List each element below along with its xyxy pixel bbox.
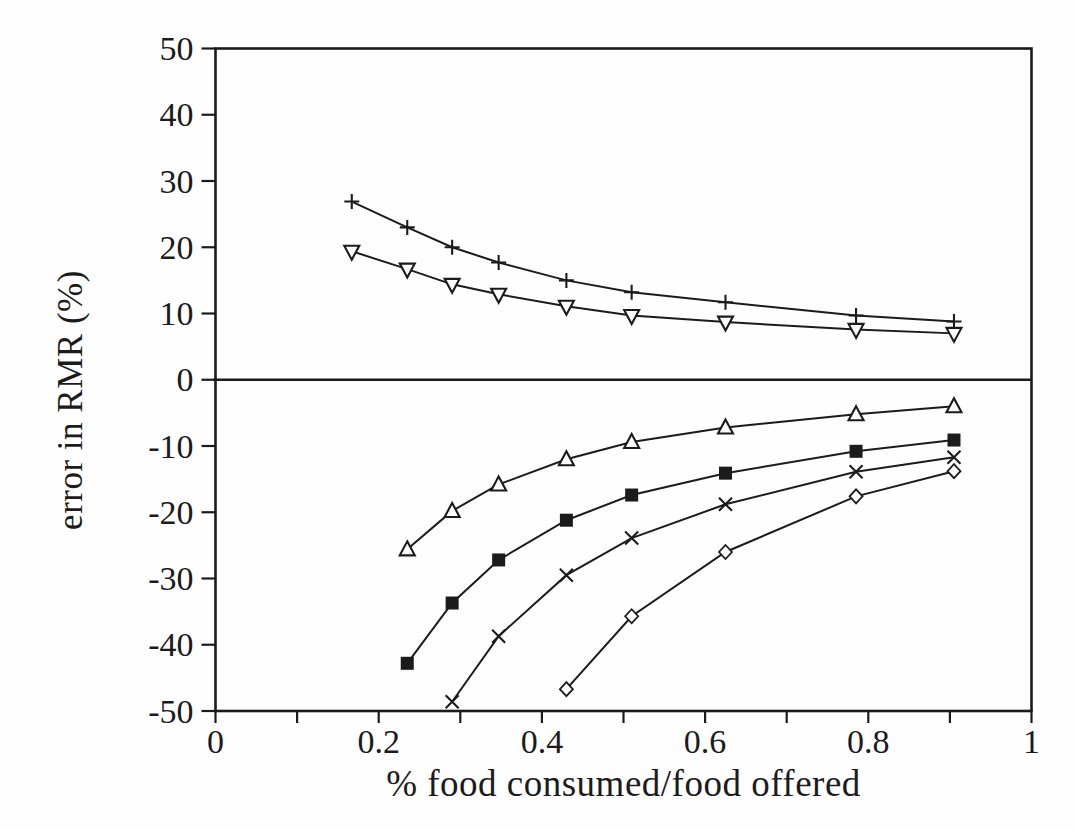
triangle-up-series-triangle-up-marker-icon [400, 541, 415, 555]
triangle-up-series-triangle-up-marker-icon [445, 503, 460, 517]
filled-square-series-line [407, 440, 954, 663]
triangle-up-series-triangle-up-marker-icon [946, 398, 961, 412]
plus-series-plus-marker-icon [491, 255, 506, 270]
x-tick-label: 0.8 [847, 723, 890, 760]
y-tick-label: 30 [160, 163, 194, 200]
y-tick-label: 10 [160, 295, 194, 332]
y-tick-label: -30 [148, 560, 193, 597]
diamond-series-diamond-marker-icon [719, 545, 732, 559]
x-cross-series-x-marker-icon [492, 630, 505, 643]
x-tick-label: 0 [207, 723, 224, 760]
y-axis-title: error in RMR (%) [51, 270, 91, 530]
filled-square-series-square-marker-icon [850, 445, 863, 458]
triangle-down-series-triangle-down-marker-icon [624, 310, 639, 324]
y-tick-label: -10 [148, 428, 193, 465]
x-tick-label: 0.4 [521, 723, 564, 760]
chart-figure: 50403020100-10-20-30-40-5000.20.40.60.81… [0, 0, 1077, 830]
x-tick-label: 0.6 [684, 723, 727, 760]
x-cross-series-x-marker-icon [560, 569, 573, 582]
filled-square-series-square-marker-icon [947, 434, 960, 447]
plot-area: 50403020100-10-20-30-40-5000.20.40.60.81 [0, 0, 1077, 830]
diamond-series-diamond-marker-icon [947, 464, 960, 478]
x-cross-series-x-marker-icon [719, 498, 732, 511]
triangle-up-series-line [407, 406, 954, 549]
y-tick-label: 0 [177, 361, 194, 398]
y-tick-label: -40 [148, 626, 193, 663]
diamond-series-diamond-marker-icon [850, 489, 863, 503]
plus-series-line [352, 202, 954, 322]
filled-square-series-square-marker-icon [719, 467, 732, 480]
filled-square-series-square-marker-icon [446, 597, 459, 610]
diamond-series-line [566, 471, 954, 689]
triangle-down-series-triangle-down-marker-icon [946, 328, 961, 342]
plus-series-plus-marker-icon [559, 273, 574, 288]
filled-square-series-square-marker-icon [560, 514, 573, 527]
plus-series-plus-marker-icon [849, 308, 864, 323]
plus-series-plus-marker-icon [445, 240, 460, 255]
plus-series-plus-marker-icon [946, 314, 961, 329]
x-axis-title: % food consumed/food offered [215, 762, 1032, 805]
filled-square-series-square-marker-icon [625, 489, 638, 502]
filled-square-series-square-marker-icon [401, 657, 414, 670]
plus-series-plus-marker-icon [400, 220, 415, 235]
y-tick-label: 40 [160, 96, 194, 133]
plus-series-plus-marker-icon [624, 285, 639, 300]
x-cross-series-x-marker-icon [625, 532, 638, 545]
filled-square-series-square-marker-icon [492, 553, 505, 566]
y-tick-label: 20 [160, 229, 194, 266]
x-cross-series-x-marker-icon [446, 695, 459, 708]
y-tick-label: 50 [160, 30, 194, 67]
x-tick-label: 0.2 [357, 723, 400, 760]
x-cross-series-line [452, 457, 954, 701]
plus-series-plus-marker-icon [718, 295, 733, 310]
x-tick-label: 1 [1023, 723, 1040, 760]
triangle-down-series-line [352, 251, 954, 333]
y-tick-label: -50 [148, 693, 193, 730]
plus-series-plus-marker-icon [344, 194, 359, 209]
triangle-down-series-triangle-down-marker-icon [849, 324, 864, 338]
triangle-down-series-triangle-down-marker-icon [718, 317, 733, 331]
y-tick-label: -20 [148, 494, 193, 531]
